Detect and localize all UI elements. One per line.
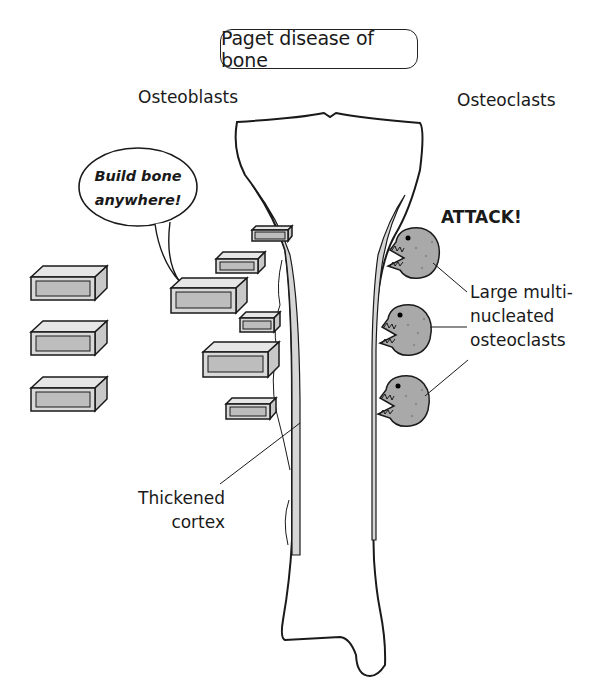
speech-bubble-line-1: Build bone: [83, 164, 193, 188]
osteoclast-desc-line-1: Large multi-: [470, 280, 573, 304]
diagram-title: Paget disease of bone: [220, 29, 418, 69]
brick-icon: [240, 312, 280, 332]
osteoblasts-label: Osteoblasts: [138, 86, 238, 108]
cortex-label-line-1: Thickened: [127, 486, 225, 510]
brick-icon: [171, 278, 247, 313]
speech-bubble-text: Build bone anywhere!: [83, 164, 193, 212]
attack-label: ATTACK!: [441, 207, 522, 227]
osteoblast-bricks: [31, 226, 292, 419]
osteoclast-desc-line-3: osteoclasts: [470, 328, 573, 352]
osteoclasts-label: Osteoclasts: [457, 89, 556, 111]
speech-bubble-line-2: anywhere!: [83, 188, 193, 212]
osteoclast-icon: [380, 305, 431, 356]
brick-icon: [31, 321, 107, 355]
osteoclast-icon: [378, 376, 429, 427]
osteoclast-desc-line-2: nucleated: [470, 304, 573, 328]
brick-icon: [31, 266, 107, 300]
cortex-label: Thickened cortex: [127, 486, 225, 534]
brick-icon: [226, 398, 276, 419]
brick-icon: [203, 342, 279, 377]
brick-icon: [216, 252, 265, 273]
cortex-label-line-2: cortex: [127, 510, 225, 534]
osteoclast-description: Large multi- nucleated osteoclasts: [470, 280, 573, 352]
brick-icon: [31, 377, 107, 411]
brick-icon: [252, 226, 292, 241]
